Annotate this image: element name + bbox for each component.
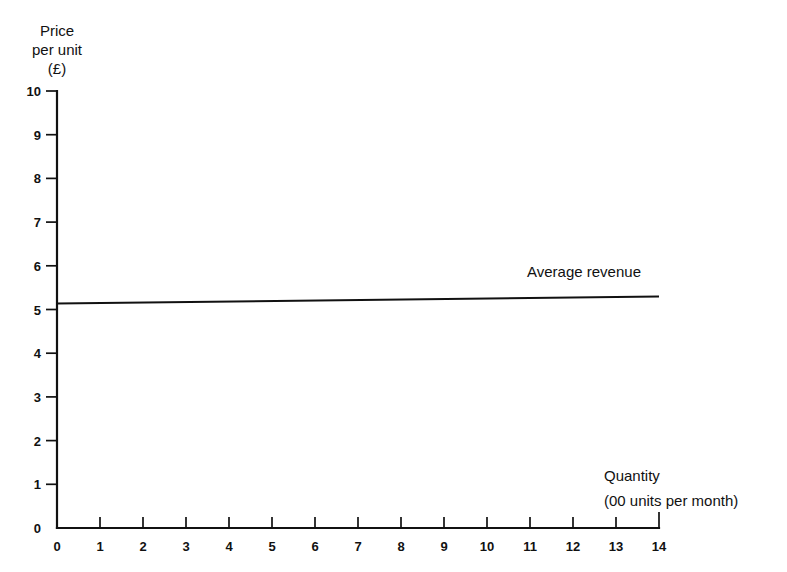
- y-axis: 10 9 8 7 6 5 4 3 2 1 0: [27, 84, 57, 536]
- x-axis-title: Quantity (00 units per month): [604, 467, 738, 509]
- y-tick-label-7: 7: [34, 215, 41, 230]
- y-tick-label-1: 1: [34, 477, 41, 492]
- x-tick-label-7: 7: [354, 539, 361, 554]
- plot-area: Average revenue: [57, 263, 659, 304]
- y-tick-label-3: 3: [34, 390, 41, 405]
- x-axis-title-line-1: Quantity: [604, 467, 660, 484]
- y-axis-ticks: [46, 91, 57, 484]
- y-tick-label-10: 10: [27, 84, 41, 99]
- x-tick-label-10: 10: [480, 539, 494, 554]
- x-tick-label-5: 5: [268, 539, 275, 554]
- x-tick-label-14: 14: [652, 539, 667, 554]
- x-axis-ticks: [100, 512, 659, 528]
- x-tick-label-11: 11: [523, 539, 537, 554]
- y-axis-title: Price per unit (£): [32, 22, 83, 77]
- y-axis-tick-labels: 10 9 8 7 6 5 4 3 2 1 0: [27, 84, 42, 536]
- x-tick-label-4: 4: [225, 539, 233, 554]
- x-axis: 0 1 2 3 4 5 6 7 8 9 10 11 12 13 14: [53, 512, 667, 554]
- average-revenue-label: Average revenue: [527, 263, 641, 280]
- x-tick-label-9: 9: [440, 539, 447, 554]
- y-tick-label-2: 2: [34, 434, 41, 449]
- y-tick-label-4: 4: [34, 346, 42, 361]
- x-axis-title-line-2: (00 units per month): [604, 492, 738, 509]
- y-tick-label-9: 9: [34, 128, 41, 143]
- x-tick-label-2: 2: [139, 539, 146, 554]
- y-tick-label-8: 8: [34, 171, 41, 186]
- x-tick-label-13: 13: [609, 539, 623, 554]
- average-revenue-chart: Price per unit (£) Quantity (00 units pe…: [0, 0, 787, 572]
- x-tick-label-0: 0: [53, 539, 60, 554]
- x-tick-label-3: 3: [182, 539, 189, 554]
- y-axis-title-line-3: (£): [48, 60, 66, 77]
- y-axis-title-line-1: Price: [40, 22, 74, 39]
- x-tick-label-8: 8: [397, 539, 404, 554]
- x-tick-label-12: 12: [566, 539, 580, 554]
- x-axis-tick-labels: 0 1 2 3 4 5 6 7 8 9 10 11 12 13 14: [53, 539, 667, 554]
- y-tick-label-6: 6: [34, 259, 41, 274]
- y-axis-title-line-2: per unit: [32, 41, 83, 58]
- average-revenue-line: [57, 297, 659, 304]
- y-tick-label-5: 5: [34, 303, 41, 318]
- chart-container: Price per unit (£) Quantity (00 units pe…: [0, 0, 787, 572]
- x-tick-label-1: 1: [96, 539, 103, 554]
- x-tick-label-6: 6: [311, 539, 318, 554]
- y-tick-label-0: 0: [34, 521, 41, 536]
